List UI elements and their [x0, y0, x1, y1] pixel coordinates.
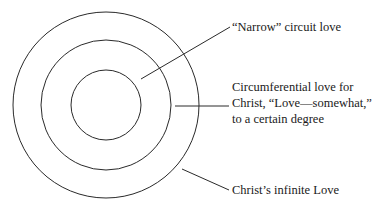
leader-line-narrow [141, 27, 230, 79]
leader-line-infinite [182, 169, 229, 190]
inner-circle-narrow-love [71, 70, 141, 140]
label-circumferential-line-1: Circumferential love for [232, 79, 372, 95]
label-circumferential-line-3: to a certain degree [232, 111, 372, 127]
middle-circle-circumferential-love [41, 40, 171, 170]
label-circumferential-love: Circumferential love for Christ, “Love—s… [232, 79, 372, 127]
label-circumferential-line-2: Christ, “Love—somewhat,” [232, 95, 372, 111]
label-narrow-circuit-love: “Narrow” circuit love [232, 19, 341, 35]
label-christs-infinite-love: Christ’s infinite Love [232, 182, 339, 198]
